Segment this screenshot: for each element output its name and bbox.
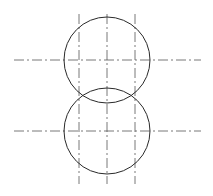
diagram-canvas xyxy=(0,0,213,196)
horizontal-centerlines xyxy=(14,60,201,131)
vertical-centerlines xyxy=(79,14,135,184)
